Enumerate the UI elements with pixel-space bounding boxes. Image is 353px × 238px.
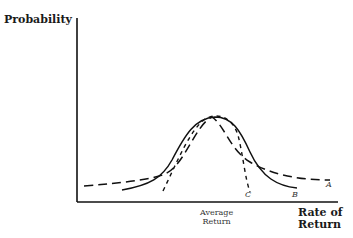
x-axis-label: Rate of Return <box>298 207 343 231</box>
chart-canvas <box>0 0 353 238</box>
curve-a-label: A <box>326 181 332 190</box>
average-return-label: Average Return <box>200 209 233 227</box>
x-axis-label-line2: Return <box>298 219 343 231</box>
curve-c-label: C <box>245 191 251 200</box>
curve-b-label: B <box>292 191 298 200</box>
average-return-line2: Return <box>200 218 233 227</box>
y-axis-label: Probability <box>4 14 72 26</box>
curve-a <box>84 117 330 186</box>
